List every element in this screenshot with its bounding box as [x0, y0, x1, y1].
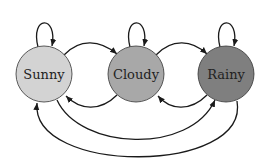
edge-sunny-cloudy	[64, 43, 117, 55]
edge-cloudy-cloudy	[129, 23, 145, 47]
state-sunny: Sunny	[16, 46, 72, 102]
state-cloudy: Cloudy	[108, 46, 164, 102]
state-sunny-label: Sunny	[23, 67, 65, 82]
edge-rainy-cloudy	[158, 95, 207, 107]
state-cloudy-label: Cloudy	[113, 67, 160, 82]
edge-cloudy-sunny	[66, 95, 117, 107]
edge-cloudy-rainy	[156, 43, 207, 55]
edge-rainy-sunny	[37, 101, 238, 157]
markov-diagram: Sunny Cloudy Rainy	[0, 0, 270, 168]
state-rainy-label: Rainy	[207, 67, 245, 82]
state-rainy: Rainy	[198, 46, 254, 102]
edge-sunny-sunny	[37, 23, 53, 47]
edge-rainy-rainy	[219, 23, 235, 47]
